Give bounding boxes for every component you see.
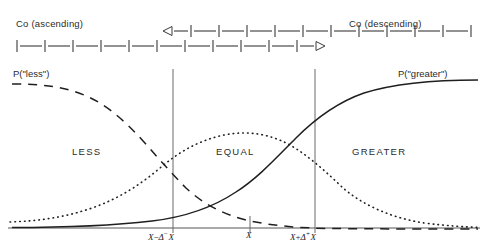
scale-row-descending [163, 25, 471, 37]
region-label-equal: EQUAL [216, 146, 255, 157]
axis-tick-label-plus: X+Δ+ X [290, 230, 316, 242]
curve-label-p-less: P("less") [13, 68, 49, 79]
axis-tick-plus-sign: + [306, 230, 310, 238]
region-label-greater: GREATER [352, 146, 406, 157]
region-label-less: LESS [72, 146, 102, 157]
figure-canvas [0, 0, 488, 245]
axis-tick-label-center: X [246, 230, 252, 240]
axis-tick-minus-sign: − [164, 230, 168, 238]
axis-tick-plus-x2: X [311, 232, 317, 242]
scale-row-ascending [17, 40, 325, 52]
axis-tick-label-minus: X−Δ− X [148, 230, 174, 242]
axis-tick-minus-x2: X [169, 232, 175, 242]
curve-label-p-greater: P("greater") [398, 68, 448, 79]
axis-tick-center-x: X [246, 230, 252, 240]
left-triangle-open-icon [163, 27, 172, 36]
probability-curves-figure: Co (ascending) Co (descending) [0, 0, 488, 245]
right-triangle-open-icon [316, 42, 325, 51]
